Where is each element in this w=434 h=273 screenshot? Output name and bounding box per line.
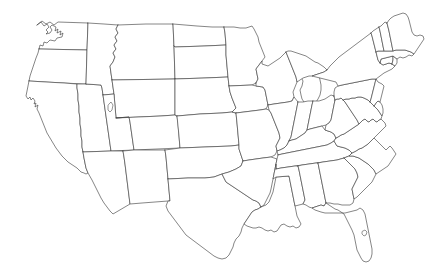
us-outline-map-figure: United States state outline map — [0, 0, 434, 273]
state-new-mexico — [123, 150, 170, 204]
state-maine — [387, 13, 424, 54]
state-iowa — [229, 85, 268, 113]
state-washington — [37, 21, 88, 50]
state-oregon — [29, 49, 87, 84]
state-montana — [110, 24, 175, 80]
state-south-dakota — [174, 45, 228, 79]
state-nebraska — [175, 77, 236, 116]
state-arizona — [83, 151, 130, 214]
water-lake-okeechobee — [362, 230, 367, 236]
state-kansas — [177, 112, 239, 148]
state-wyoming — [112, 79, 175, 118]
state-north-dakota — [173, 24, 226, 47]
us-map-svg — [0, 0, 434, 273]
